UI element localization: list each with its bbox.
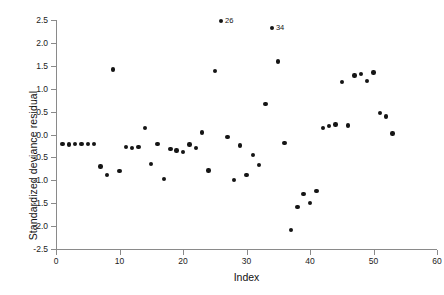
y-tick-label: 2.5 [22,15,48,25]
data-point [187,142,191,146]
y-tick-mark [51,20,56,21]
y-tick-label: -2.5 [22,244,48,254]
point-annotation-label: 34 [276,23,284,32]
data-point [200,130,204,134]
x-tick-mark [56,250,57,255]
data-point [111,67,115,71]
data-point [371,70,375,74]
data-point [321,126,325,130]
y-tick-label: 0.5 [22,107,48,117]
data-point [105,173,109,177]
x-tick-label: 0 [41,256,71,266]
y-tick-mark [51,112,56,113]
data-point [130,146,134,150]
data-point [67,142,71,146]
y-tick-mark [51,180,56,181]
x-tick-label: 10 [105,256,135,266]
x-tick-label: 20 [168,256,198,266]
x-tick-label: 40 [295,256,325,266]
y-tick-mark [51,135,56,136]
data-point [270,26,274,30]
x-tick-mark [437,250,438,255]
y-axis-line [56,20,57,250]
x-axis-title: Index [56,271,437,283]
x-tick-mark [120,250,121,255]
data-point [86,142,90,146]
data-point [213,69,217,73]
data-point [289,228,293,232]
data-point [346,123,350,127]
data-point [73,142,77,146]
x-tick-mark [310,250,311,255]
data-point [206,168,210,172]
y-tick-mark [51,66,56,67]
data-point [92,142,96,146]
data-point [174,148,178,152]
data-point [149,162,153,166]
x-tick-label: 50 [359,256,389,266]
data-point [219,19,223,23]
y-tick-label: -2.0 [22,221,48,231]
point-annotation-label: 26 [225,16,233,25]
data-point [117,169,121,173]
y-tick-mark [51,43,56,44]
data-point [295,205,299,209]
y-tick-label: -0.5 [22,152,48,162]
x-tick-mark [374,250,375,255]
data-point [225,135,229,139]
data-point [384,114,388,118]
data-point [327,124,331,128]
y-tick-label: -1.0 [22,175,48,185]
data-point [301,192,305,196]
data-point [232,178,236,182]
y-tick-label: -1.5 [22,198,48,208]
y-tick-mark [51,226,56,227]
y-tick-mark [51,203,56,204]
data-point [314,189,318,193]
data-point [181,150,185,154]
scatter-plot-figure: Standardized deviance residual Index -2.… [0,0,444,295]
y-tick-label: 2.0 [22,38,48,48]
x-tick-label: 30 [232,256,262,266]
data-point [79,142,83,146]
y-tick-mark [51,157,56,158]
data-point [155,142,159,146]
data-point [352,73,356,77]
x-tick-label: 60 [422,256,444,266]
data-point [251,153,255,157]
data-point [168,147,172,151]
data-point [365,79,369,83]
y-tick-mark [51,89,56,90]
data-point [308,201,312,205]
data-point [276,59,280,63]
data-point [238,143,242,147]
y-tick-label: 0.0 [22,130,48,140]
data-point [162,177,166,181]
data-point [60,142,64,146]
data-point [257,163,261,167]
y-tick-label: 1.5 [22,61,48,71]
data-point [194,146,198,150]
data-point [136,145,140,149]
x-tick-mark [183,250,184,255]
x-tick-mark [247,250,248,255]
data-point [282,141,286,145]
plot-data-area: 2634 [0,0,444,295]
y-tick-label: 1.0 [22,84,48,94]
data-point [359,72,363,76]
data-point [390,131,394,135]
data-point [244,173,248,177]
data-point [340,80,344,84]
data-point [124,145,128,149]
data-point [333,122,337,126]
data-point [378,111,382,115]
data-point [98,164,102,168]
data-point [263,102,267,106]
data-point [143,126,147,130]
